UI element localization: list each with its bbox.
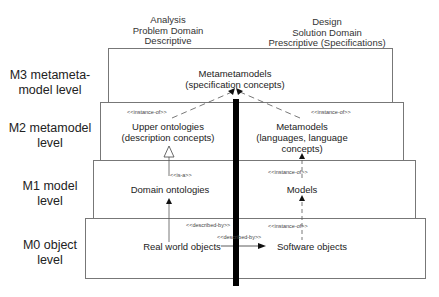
- label-upper-instance-of: <<instance-of>>: [127, 109, 167, 116]
- arrowhead-up-icon: [299, 195, 305, 201]
- node-software-objects: Software objects: [272, 241, 352, 252]
- node-metamodels-line3: concepts): [252, 143, 352, 154]
- label-rwo-so-described-by: <<described-by>>: [217, 234, 261, 241]
- node-upper-ontologies-line1: Upper ontologies: [118, 121, 218, 132]
- label-models-instance-of: <<instance-of>>: [268, 169, 308, 176]
- node-domain-ontologies-line1: Domain ontologies: [120, 184, 220, 195]
- node-metamodels-line2: (languages, language: [252, 132, 352, 143]
- upper-to-metameta-line: [172, 92, 232, 118]
- label-meta-instance-of: <<instance-of>>: [311, 109, 351, 116]
- node-metametamodels-line2: (specification concepts): [185, 79, 285, 90]
- label-so-instance-of: <<instance-of>>: [268, 223, 308, 230]
- label-is-a: <<is-a>>: [170, 172, 192, 179]
- node-metamodels-line1: Metamodels: [252, 121, 352, 132]
- node-metametamodels: Metametamodels (specification concepts): [185, 68, 285, 90]
- label-rwo-described-by: <<described-by>>: [186, 222, 230, 229]
- arrowhead-right-icon: [258, 243, 266, 249]
- node-models-line1: Models: [262, 184, 342, 195]
- node-models: Models: [262, 184, 342, 195]
- domain-divider-bar: [233, 99, 239, 286]
- node-upper-ontologies-line2: (description concepts): [118, 132, 218, 143]
- node-metametamodels-line1: Metametamodels: [185, 68, 285, 79]
- node-metamodels: Metamodels (languages, language concepts…: [252, 121, 352, 154]
- node-domain-ontologies: Domain ontologies: [120, 184, 220, 195]
- node-real-world-objects-line1: Real world objects: [142, 241, 222, 252]
- node-upper-ontologies: Upper ontologies (description concepts): [118, 121, 218, 143]
- node-real-world-objects: Real world objects: [142, 241, 222, 252]
- node-software-objects-line1: Software objects: [272, 241, 352, 252]
- arrowhead-up-icon: [166, 198, 172, 204]
- meta-to-metameta-line: [240, 92, 300, 118]
- hollow-triangle-icon: [164, 146, 174, 157]
- connectors-overlay: [0, 0, 439, 297]
